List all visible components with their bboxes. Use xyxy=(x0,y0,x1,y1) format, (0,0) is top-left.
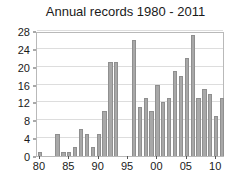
y-axis: 0481216202428 xyxy=(0,32,33,157)
chart-figure: Annual records 1980 - 2011 0481216202428… xyxy=(0,0,251,185)
bar xyxy=(102,111,106,156)
bar xyxy=(132,40,136,156)
gridline xyxy=(37,30,223,31)
x-axis: 80859095000510 xyxy=(36,159,224,181)
bar xyxy=(91,147,95,156)
x-tick-label: 85 xyxy=(62,161,74,172)
bar-series xyxy=(37,33,223,156)
bar xyxy=(208,94,212,157)
x-tick-mark xyxy=(215,156,216,159)
plot-area xyxy=(36,32,224,157)
x-tick-label: 95 xyxy=(121,161,133,172)
bar xyxy=(85,134,89,156)
x-tick-mark xyxy=(156,156,157,159)
bar xyxy=(73,147,77,156)
bar xyxy=(108,62,112,156)
y-tick-label: 4 xyxy=(24,134,30,145)
bar xyxy=(97,134,101,156)
bar xyxy=(149,111,153,156)
bar xyxy=(202,89,206,156)
x-tick-label: 90 xyxy=(92,161,104,172)
x-tick-mark xyxy=(127,156,128,159)
bar xyxy=(220,98,224,156)
y-tick-label: 28 xyxy=(18,27,30,38)
bar xyxy=(167,98,171,156)
y-tick-label: 0 xyxy=(24,152,30,163)
bar xyxy=(185,58,189,156)
bar xyxy=(191,35,195,156)
x-tick-mark xyxy=(186,156,187,159)
bar xyxy=(55,134,59,156)
y-tick-label: 12 xyxy=(18,98,30,109)
bar xyxy=(79,129,83,156)
y-tick-label: 8 xyxy=(24,116,30,127)
bar xyxy=(196,98,200,156)
x-tick-label: 00 xyxy=(150,161,162,172)
x-tick-label: 10 xyxy=(209,161,221,172)
x-tick-mark xyxy=(39,156,40,159)
bar xyxy=(214,116,218,156)
x-tick-label: 80 xyxy=(33,161,45,172)
y-tick-label: 24 xyxy=(18,44,30,55)
bar xyxy=(138,107,142,156)
bar xyxy=(61,152,65,156)
y-tick-label: 16 xyxy=(18,80,30,91)
bar xyxy=(161,102,165,156)
x-tick-mark xyxy=(68,156,69,159)
bar xyxy=(179,76,183,156)
bar xyxy=(155,85,159,156)
bar xyxy=(114,62,118,156)
bar xyxy=(173,71,177,156)
x-tick-label: 05 xyxy=(180,161,192,172)
x-tick-mark xyxy=(98,156,99,159)
y-tick-label: 20 xyxy=(18,62,30,73)
chart-title: Annual records 1980 - 2011 xyxy=(0,4,251,19)
bar xyxy=(144,98,148,156)
